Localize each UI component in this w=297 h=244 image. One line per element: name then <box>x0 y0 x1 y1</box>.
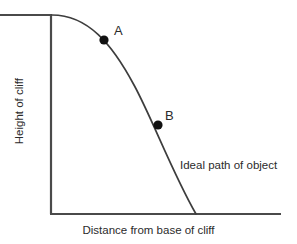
y-axis-label: Height of cliff <box>14 78 26 144</box>
projectile-diagram-svg <box>0 0 297 244</box>
point-b-label: B <box>165 109 174 122</box>
point-a-label: A <box>114 24 123 37</box>
x-axis-label: Distance from base of cliff <box>0 225 297 237</box>
trajectory-curve <box>52 15 196 214</box>
point-b-marker <box>153 120 162 129</box>
curve-annotation-label: Ideal path of object <box>180 160 277 172</box>
point-a-marker <box>99 35 108 44</box>
diagram-canvas: A B Ideal path of object Distance from b… <box>0 0 297 244</box>
